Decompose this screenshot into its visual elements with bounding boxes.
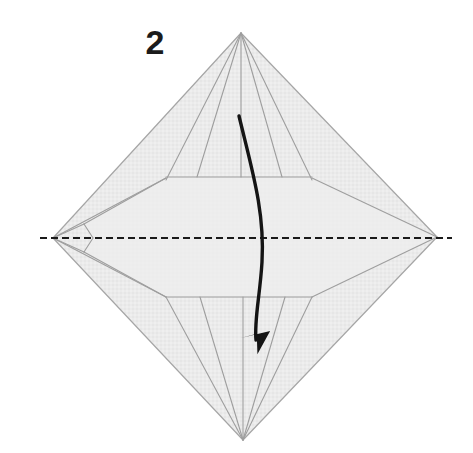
origami-figure <box>0 0 473 453</box>
origami-diagram: 2 <box>0 0 473 453</box>
step-number-label: 2 <box>132 22 178 62</box>
